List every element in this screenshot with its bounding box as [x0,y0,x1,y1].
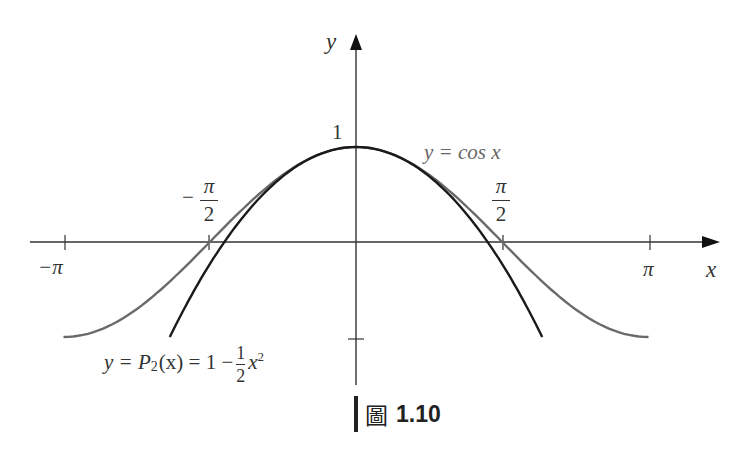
y-axis-label: y [326,30,336,53]
caption-bar [354,396,358,432]
frac-bar [492,200,510,201]
cos-curve-label: y = cos x [424,142,501,163]
caption-number: 1.10 [396,401,441,428]
neg-sign: − [182,187,194,208]
x-tick-label-neg-half-pi: π 2 [200,176,218,225]
p2-prefix: y = P [104,352,151,373]
frac-numerator: π [200,176,218,197]
half-fraction: 1 2 [236,344,245,385]
frac-bar [236,364,245,365]
x-axis-label: x [706,258,716,281]
frac-numerator: π [492,176,510,197]
figure-caption: 圖 1.10 [354,396,441,432]
y-tick-label-one: 1 [332,122,343,143]
caption-figure-word: 圖 [365,397,388,431]
y-axis-arrow-icon [350,34,362,50]
frac-numerator: 1 [236,344,245,362]
figure-canvas [0,0,744,454]
x-tick-label-neg-pi: −π [38,257,63,278]
x-axis-arrow-icon [702,236,720,248]
frac-denominator: 2 [236,367,245,385]
frac-bar [200,200,218,201]
frac-denominator: 2 [492,204,510,225]
p2-subscript: 2 [151,360,158,374]
x-tick-label-pi: π [643,259,654,280]
x-tick-label-half-pi: π 2 [492,176,510,225]
p2-middle: (x) = 1 − [159,352,233,373]
p2-x: x [248,352,257,373]
p2-exponent: 2 [258,350,265,363]
frac-denominator: 2 [200,204,218,225]
taylor-curve-label: y = P 2 (x) = 1 − 1 2 x 2 [104,342,264,383]
